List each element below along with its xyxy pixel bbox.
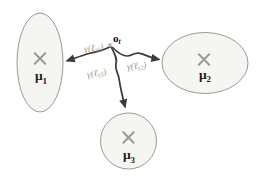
geodesic-label-t2-pre: γ(ℓ	[126, 61, 138, 73]
geodesic-curve-t3	[112, 48, 126, 107]
cluster-3-label-subscript: 3	[131, 155, 136, 165]
origin-label-subscript: t	[119, 37, 122, 46]
cluster-1-ellipse	[17, 13, 63, 112]
cluster-2-ellipse	[162, 33, 248, 94]
cluster-1-label-subscript: 1	[43, 76, 48, 86]
geodesic-curve-t2	[113, 48, 159, 60]
geodesic-label-t1: γ(ℓt1)	[83, 42, 104, 56]
cluster-2-label-subscript: 2	[207, 74, 212, 84]
geodesic-label-t3: γ(ℓt3)	[86, 67, 107, 81]
observation-point-label: ot	[113, 32, 122, 46]
geodesic-label-t3-pre: γ(ℓ	[86, 68, 98, 81]
figure-svg: ot μ1 μ2 μ3 γ(ℓt1) γ(ℓt2) γ(ℓt3)	[0, 0, 260, 179]
geodesic-label-t1-pre: γ(ℓ	[83, 43, 95, 55]
observation-point-dot	[108, 43, 112, 47]
geodesic-cluster-figure: ot μ1 μ2 μ3 γ(ℓt1) γ(ℓt2) γ(ℓt3)	[0, 0, 260, 179]
geodesic-label-t2: γ(ℓt2)	[126, 60, 146, 73]
